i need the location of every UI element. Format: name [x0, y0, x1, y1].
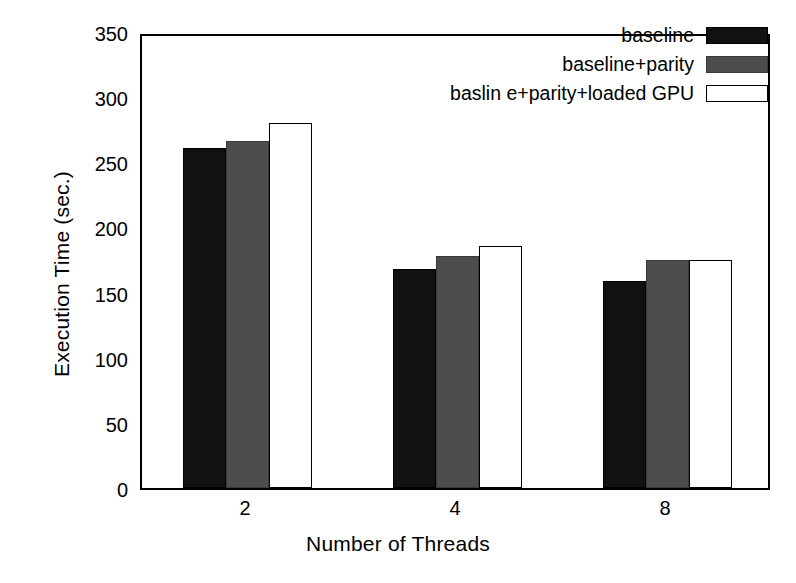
y-axis-tick-label: 300: [58, 88, 128, 111]
x-axis-label: Number of Threads: [0, 532, 796, 556]
bar: [479, 246, 522, 488]
bar: [393, 269, 436, 488]
bar-chart-figure: Execution Time (sec.) 050100150200250300…: [0, 0, 796, 583]
legend-label: baseline+parity: [562, 53, 694, 76]
bar: [183, 148, 226, 488]
chart-legend: baselinebaseline+paritybaslin e+parity+l…: [450, 24, 768, 105]
bar: [226, 141, 269, 488]
y-axis-tick-label: 0: [58, 479, 128, 502]
x-axis-tick-label: 8: [635, 497, 695, 520]
legend-swatch: [706, 27, 768, 44]
y-axis-tick-label: 250: [58, 153, 128, 176]
bar: [646, 260, 689, 488]
y-axis-tick-label: 350: [58, 23, 128, 46]
bar: [603, 281, 646, 488]
legend-label: baseline: [621, 24, 694, 47]
y-axis-tick-label: 150: [58, 283, 128, 306]
y-axis-tick-label: 100: [58, 348, 128, 371]
bar: [689, 260, 732, 488]
legend-item: baseline: [621, 24, 768, 47]
legend-label: baslin e+parity+loaded GPU: [450, 82, 694, 105]
legend-item: baslin e+parity+loaded GPU: [450, 82, 768, 105]
legend-item: baseline+parity: [562, 53, 768, 76]
legend-swatch: [706, 85, 768, 102]
y-axis-tick-label: 50: [58, 413, 128, 436]
bar: [436, 256, 479, 488]
x-axis-tick-label: 4: [425, 497, 485, 520]
bar: [269, 123, 312, 488]
x-axis-tick-label: 2: [215, 497, 275, 520]
legend-swatch: [706, 56, 768, 73]
y-axis-tick-label: 200: [58, 218, 128, 241]
